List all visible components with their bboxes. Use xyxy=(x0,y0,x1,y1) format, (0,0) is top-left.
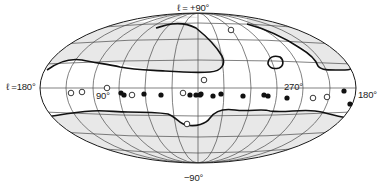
sky-map xyxy=(0,0,381,186)
open-object-marker xyxy=(68,90,74,96)
filled-object-marker xyxy=(218,91,223,96)
open-object-marker xyxy=(310,95,316,101)
open-object-marker xyxy=(180,90,186,96)
filled-object-marker xyxy=(210,93,215,98)
filled-object-marker xyxy=(284,95,289,100)
open-object-marker xyxy=(184,121,190,127)
filled-object-marker xyxy=(121,92,126,97)
open-object-marker xyxy=(324,94,330,100)
filled-object-marker xyxy=(240,93,245,98)
open-object-marker xyxy=(79,89,85,95)
label-90: 90° xyxy=(96,91,110,101)
label-south-pole: −90° xyxy=(184,173,203,183)
filled-object-marker xyxy=(341,88,346,93)
filled-object-marker xyxy=(141,91,146,96)
label-270: 270° xyxy=(284,82,303,92)
open-object-marker xyxy=(228,27,234,33)
small-loop xyxy=(268,56,283,68)
filled-object-marker xyxy=(265,93,270,98)
filled-object-marker xyxy=(198,91,203,96)
open-object-marker xyxy=(129,92,135,98)
label-right-180: 180° xyxy=(358,90,377,100)
label-north-pole: ℓ = +90° xyxy=(177,3,209,13)
filled-object-marker xyxy=(187,92,192,97)
filled-object-marker xyxy=(158,92,163,97)
label-left-180: ℓ =180° xyxy=(6,82,36,92)
filled-object-marker xyxy=(347,101,352,106)
open-object-marker xyxy=(201,77,207,83)
